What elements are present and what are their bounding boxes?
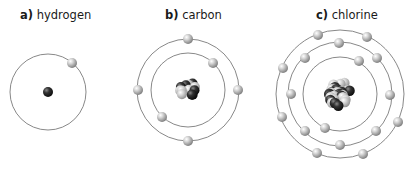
electron [362,32,372,42]
electron [183,34,193,44]
atom-hydrogen [10,54,86,130]
nucleus [175,79,200,100]
proton [333,101,343,111]
neutron [177,89,187,99]
electron [334,38,344,48]
electron [300,126,310,136]
electron [372,53,382,63]
electron [300,53,310,63]
electron [385,90,395,100]
nucleus [43,87,53,97]
atom-diagram [0,0,413,169]
electron [354,56,364,66]
proton [187,90,197,100]
electron [393,117,403,127]
electron [335,140,345,150]
electron [208,58,218,68]
electron [312,148,322,158]
electron [67,58,77,68]
proton [43,87,53,97]
electron [133,85,143,95]
nucleus [324,78,355,111]
atom-carbon [133,34,243,146]
electron [157,112,167,122]
electron [371,126,381,136]
electron [277,112,287,122]
electron [286,89,296,99]
electron [313,30,323,40]
electron [183,136,193,146]
atom-chlorine [276,30,404,159]
electron [320,123,330,133]
electron [358,149,368,159]
electron [278,63,288,73]
electron [233,85,243,95]
